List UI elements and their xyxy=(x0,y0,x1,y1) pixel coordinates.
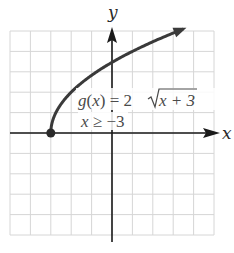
start-point xyxy=(46,129,55,138)
curve-arrow-icon xyxy=(173,28,187,37)
eq-equals: = 2 xyxy=(105,91,132,110)
eq-g: g xyxy=(78,91,87,110)
svg-text:g(x) = 2: g(x) = 2 xyxy=(78,91,132,110)
domain-rest: ≥ −3 xyxy=(89,112,125,131)
svg-text:x + 3: x + 3 xyxy=(158,91,195,110)
domain-label: x ≥ −3 xyxy=(78,112,128,131)
x-axis-label: x xyxy=(222,123,232,143)
equation-label: g(x) = 2 x + 3 xyxy=(76,88,216,110)
y-axis-label: y xyxy=(107,2,118,22)
svg-text:x ≥ −3: x ≥ −3 xyxy=(80,112,124,131)
graph-canvas: y x g(x) = 2 x + 3 x ≥ −3 xyxy=(0,0,234,253)
eq-radicand: x + 3 xyxy=(158,91,195,110)
